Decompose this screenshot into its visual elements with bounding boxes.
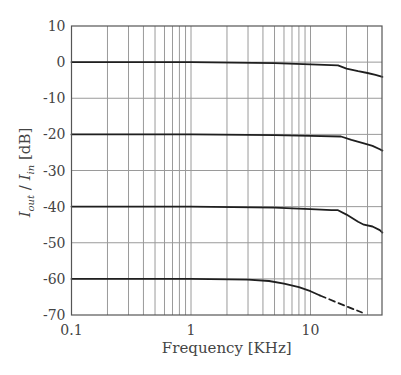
y-tick-label: -20 bbox=[43, 126, 66, 142]
y-tick-label: -30 bbox=[43, 163, 66, 179]
response-curve bbox=[72, 279, 321, 296]
y-tick-label: 10 bbox=[48, 18, 66, 34]
y-tick-label: 0 bbox=[57, 54, 66, 70]
frequency-response-chart: 100-10-20-30-40-50-60-70 0.1110 Frequenc… bbox=[0, 0, 401, 375]
y-tick-label: -40 bbox=[43, 199, 66, 215]
x-axis-ticks: 0.1110 bbox=[60, 322, 319, 338]
y-axis-label: Iout / Iin [dB] bbox=[16, 128, 36, 219]
x-tick-label: 10 bbox=[302, 322, 320, 338]
grid-lines bbox=[72, 26, 383, 315]
y-axis-ticks: 100-10-20-30-40-50-60-70 bbox=[43, 18, 66, 323]
x-tick-label: 0.1 bbox=[60, 322, 82, 338]
y-tick-label: -70 bbox=[43, 307, 66, 323]
x-tick-label: 1 bbox=[187, 322, 196, 338]
extrapolation-curve bbox=[320, 296, 362, 313]
x-axis-label: Frequency [KHz] bbox=[162, 339, 292, 357]
y-tick-label: -60 bbox=[43, 271, 66, 287]
y-tick-label: -50 bbox=[43, 235, 66, 251]
y-tick-label: -10 bbox=[43, 90, 66, 106]
